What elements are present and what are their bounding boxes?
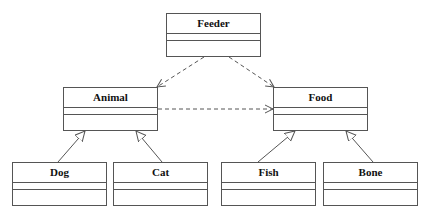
operations-compartment bbox=[13, 190, 106, 206]
attributes-compartment bbox=[324, 183, 417, 190]
dependency-feeder-food bbox=[229, 57, 274, 87]
operations-compartment bbox=[274, 115, 367, 131]
class-name: Cat bbox=[114, 163, 207, 183]
attributes-compartment bbox=[13, 183, 106, 190]
class-name: Food bbox=[274, 88, 367, 108]
class-feeder[interactable]: Feeder bbox=[166, 13, 261, 57]
generalization-bone-food bbox=[346, 131, 373, 162]
class-name: Animal bbox=[64, 88, 157, 108]
class-fish[interactable]: Fish bbox=[221, 162, 316, 206]
class-dog[interactable]: Dog bbox=[12, 162, 107, 206]
class-name: Fish bbox=[222, 163, 315, 183]
operations-compartment bbox=[222, 190, 315, 206]
uml-class-diagram: Feeder Animal Food Dog Cat Fish Bone bbox=[0, 0, 429, 217]
operations-compartment bbox=[64, 115, 157, 131]
attributes-compartment bbox=[114, 183, 207, 190]
generalization-fish-food bbox=[258, 131, 295, 162]
generalization-cat-animal bbox=[136, 131, 162, 162]
class-name: Dog bbox=[13, 163, 106, 183]
class-name: Bone bbox=[324, 163, 417, 183]
class-cat[interactable]: Cat bbox=[113, 162, 208, 206]
generalization-dog-animal bbox=[58, 131, 85, 162]
class-animal[interactable]: Animal bbox=[63, 87, 158, 131]
operations-compartment bbox=[167, 41, 260, 57]
operations-compartment bbox=[114, 190, 207, 206]
operations-compartment bbox=[324, 190, 417, 206]
attributes-compartment bbox=[167, 34, 260, 41]
class-bone[interactable]: Bone bbox=[323, 162, 418, 206]
dependency-feeder-animal bbox=[157, 57, 204, 87]
attributes-compartment bbox=[222, 183, 315, 190]
class-food[interactable]: Food bbox=[273, 87, 368, 131]
class-name: Feeder bbox=[167, 14, 260, 34]
attributes-compartment bbox=[274, 108, 367, 115]
attributes-compartment bbox=[64, 108, 157, 115]
